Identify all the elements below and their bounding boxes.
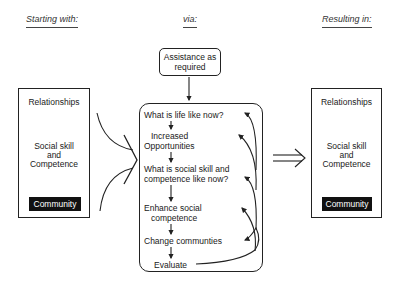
connector-lines	[0, 0, 402, 285]
funnel-chevron-icon	[124, 135, 137, 184]
double-arrow-right-icon	[273, 149, 305, 167]
